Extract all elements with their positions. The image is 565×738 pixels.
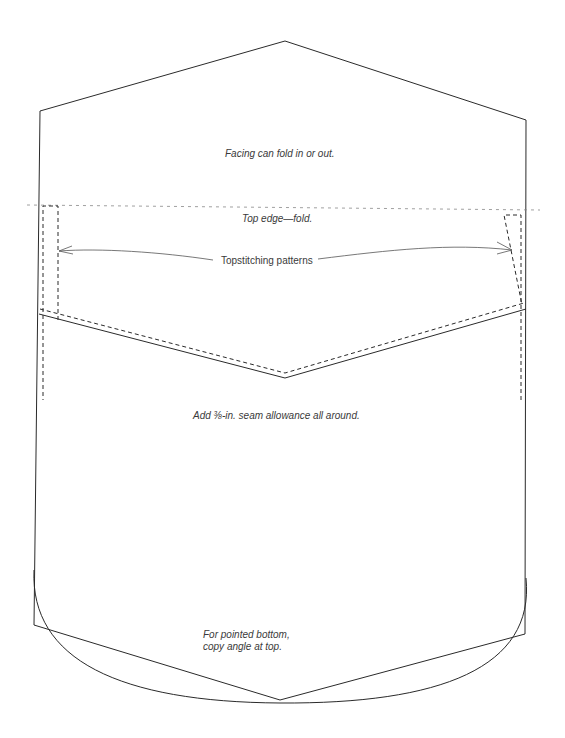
facing-chevron-line — [39, 309, 526, 378]
pocket-pattern-diagram — [0, 0, 565, 738]
topstitch-arrow-left — [59, 250, 213, 260]
topstitch-left-rectangle — [43, 206, 58, 400]
seam-allowance-label: Add ⅜-in. seam allowance all around. — [193, 410, 360, 422]
pointed-bottom-label-line1: For pointed bottom, — [203, 629, 290, 641]
top-edge-fold-label: Top edge—fold. — [242, 213, 312, 225]
topstitching-label: Topstitching patterns — [221, 255, 313, 267]
top-edge-fold-line — [27, 205, 540, 210]
pointed-bottom-label-line2: copy angle at top. — [203, 641, 282, 653]
pattern-right-side — [525, 120, 526, 634]
pattern-outline-top — [40, 41, 526, 120]
topstitch-arrow-right — [318, 247, 512, 259]
pattern-left-side — [34, 111, 40, 625]
topstitch-chevron-dashed — [40, 303, 524, 373]
facing-label: Facing can fold in or out. — [225, 148, 335, 160]
topstitch-right-tapered — [504, 215, 522, 400]
